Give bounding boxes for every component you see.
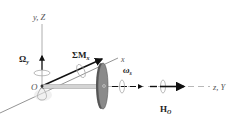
moment-vector xyxy=(42,59,102,86)
spin-label: ωs xyxy=(123,65,133,76)
moment-label: ΣMx xyxy=(72,50,89,61)
x-axis-label: x xyxy=(120,55,125,64)
angular-momentum-label: HO xyxy=(160,104,172,115)
origin-label: O xyxy=(31,82,38,92)
vertical-axis-label: y, Z xyxy=(32,12,46,22)
rod xyxy=(42,85,100,89)
gyroscope-diagram: y, Z Ωy x ΣMx O z, Y ωs HO xyxy=(0,0,235,128)
horizontal-axis-label: z, Y xyxy=(212,82,227,92)
disk xyxy=(98,63,108,109)
precession-label: Ωy xyxy=(19,54,29,65)
origin-point xyxy=(41,85,44,88)
